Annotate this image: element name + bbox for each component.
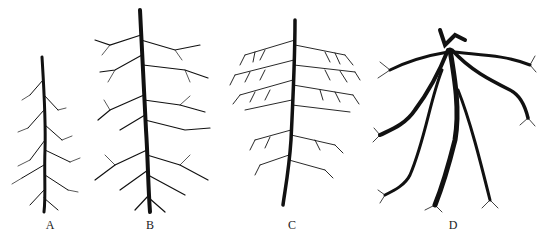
panel-d: D [370,0,538,238]
panel-label: C [282,218,302,233]
root-system-b-illustration [90,0,220,215]
panel-label: B [140,218,160,233]
panel-label: D [443,218,463,233]
panel-c: C [225,0,365,238]
root-system-d-illustration [370,0,538,215]
root-system-c-illustration [225,0,365,215]
panel-b: B [90,0,220,238]
panel-label: A [40,218,60,233]
